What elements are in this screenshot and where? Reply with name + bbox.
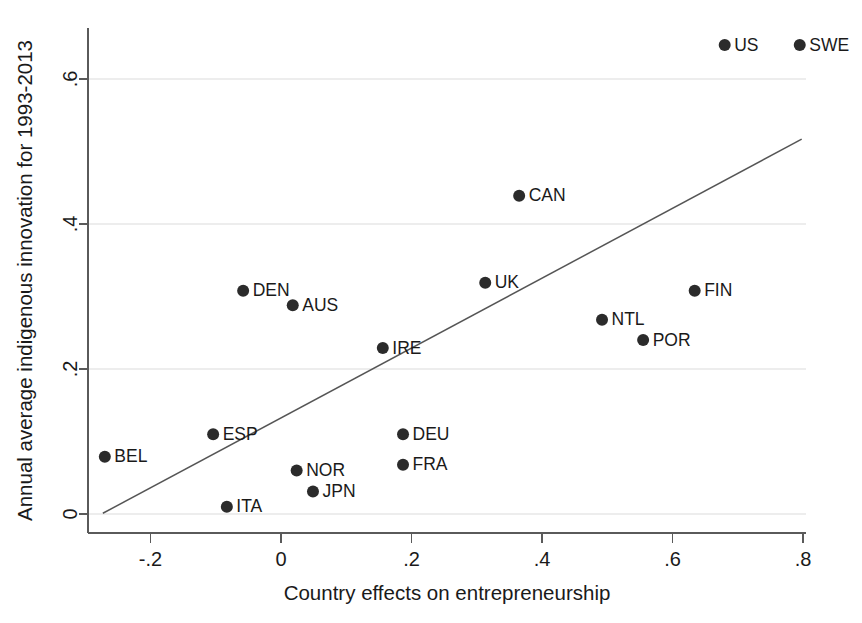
- marker-jpn: [307, 486, 319, 498]
- marker-us: [719, 39, 731, 51]
- marker-can: [513, 190, 525, 202]
- point-label-por: POR: [653, 330, 691, 350]
- data-point-por: POR: [637, 330, 690, 350]
- marker-aus: [287, 299, 299, 311]
- data-point-ire: IRE: [377, 338, 422, 358]
- data-point-swe: SWE: [794, 35, 849, 55]
- data-point-ita: ITA: [221, 496, 263, 516]
- marker-ntl: [596, 314, 608, 326]
- marker-den: [237, 285, 249, 297]
- point-label-fin: FIN: [704, 280, 732, 300]
- marker-ita: [221, 501, 233, 513]
- point-label-aus: AUS: [302, 295, 338, 315]
- y-tick-label-.4: .4: [59, 216, 81, 233]
- data-point-us: US: [719, 35, 759, 55]
- marker-deu: [397, 428, 409, 440]
- point-label-uk: UK: [495, 272, 520, 292]
- y-axis-ticks: 0.2.4.6: [59, 71, 88, 520]
- scatter-plot-figure: 0.2.4.6-.20.2.4.6.8USSWECANUKFINDENAUSNT…: [0, 0, 862, 623]
- point-label-jpn: JPN: [322, 481, 355, 501]
- y-axis-title: Annual average indigenous innovation for…: [13, 40, 36, 521]
- data-points: USSWECANUKFINDENAUSNTLPORIREDEUESPBELFRA…: [99, 35, 849, 517]
- data-point-bel: BEL: [99, 446, 148, 466]
- data-point-esp: ESP: [207, 424, 258, 444]
- y-tick-label-.6: .6: [59, 71, 81, 88]
- data-point-den: DEN: [237, 280, 289, 300]
- y-tick-label-.2: .2: [59, 361, 81, 378]
- x-tick-label-.2: .2: [403, 548, 420, 570]
- marker-por: [637, 334, 649, 346]
- data-point-uk: UK: [479, 272, 519, 292]
- point-label-den: DEN: [253, 280, 290, 300]
- data-point-jpn: JPN: [307, 481, 356, 501]
- data-point-can: CAN: [513, 185, 565, 205]
- marker-swe: [794, 39, 806, 51]
- data-point-fin: FIN: [689, 280, 733, 300]
- data-point-nor: NOR: [291, 460, 345, 480]
- point-label-ire: IRE: [392, 338, 421, 358]
- data-point-deu: DEU: [397, 424, 449, 444]
- x-tick-label-.6: .6: [664, 548, 681, 570]
- point-label-ntl: NTL: [612, 309, 645, 329]
- point-label-us: US: [734, 35, 758, 55]
- marker-fra: [397, 459, 409, 471]
- marker-esp: [207, 428, 219, 440]
- data-point-aus: AUS: [287, 295, 338, 315]
- x-tick-label-.8: .8: [795, 548, 812, 570]
- point-label-can: CAN: [529, 185, 566, 205]
- x-axis-ticks: -.20.2.4.6.8: [139, 533, 812, 570]
- marker-fin: [689, 285, 701, 297]
- point-label-ita: ITA: [236, 496, 262, 516]
- plot-canvas: 0.2.4.6-.20.2.4.6.8USSWECANUKFINDENAUSNT…: [0, 0, 862, 623]
- marker-nor: [291, 465, 303, 477]
- data-point-fra: FRA: [397, 454, 448, 474]
- point-label-esp: ESP: [223, 424, 258, 444]
- marker-ire: [377, 342, 389, 354]
- x-tick-label-0: 0: [275, 548, 286, 570]
- x-tick-label--.2: -.2: [139, 548, 162, 570]
- point-label-fra: FRA: [413, 454, 448, 474]
- point-label-bel: BEL: [114, 446, 147, 466]
- x-tick-label-.4: .4: [534, 548, 551, 570]
- marker-bel: [99, 451, 111, 463]
- point-label-nor: NOR: [306, 460, 345, 480]
- data-point-ntl: NTL: [596, 309, 645, 329]
- x-axis-title: Country effects on entrepreneurship: [284, 581, 611, 604]
- marker-uk: [479, 277, 491, 289]
- regression-line: [103, 139, 802, 513]
- y-tick-label-0: 0: [59, 508, 81, 519]
- point-label-swe: SWE: [809, 35, 849, 55]
- gridlines: [88, 79, 806, 514]
- point-label-deu: DEU: [413, 424, 450, 444]
